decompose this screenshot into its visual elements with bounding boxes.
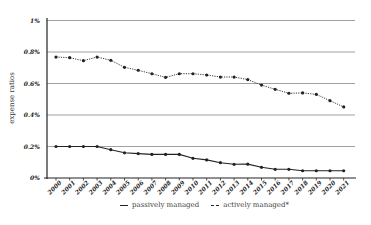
data-point-marker [301,169,304,172]
data-point-marker [301,91,304,94]
x-tick-label: 2018 [292,178,310,196]
data-point-marker [178,72,181,75]
x-tick-label: 2002 [73,179,90,196]
x-tick-label: 2012 [210,179,227,196]
data-point-marker [82,145,85,148]
data-point-marker [287,168,290,171]
data-point-marker [54,55,57,58]
data-point-marker [54,145,57,148]
data-point-marker [274,168,277,171]
x-tick-label: 2017 [278,178,296,196]
data-point-marker [233,75,236,78]
data-point-marker [150,153,153,156]
data-point-marker [96,55,99,58]
x-tick-label: 2021 [333,179,350,196]
x-tick-label: 2001 [59,179,76,196]
data-point-marker [137,152,140,155]
data-point-marker [246,163,249,166]
legend: passively managed actively managed* [120,201,289,209]
data-point-marker [164,76,167,79]
x-tick-label: 2000 [45,178,63,196]
data-point-marker [342,105,345,108]
data-point-marker [219,161,222,164]
x-tick-label: 2008 [155,178,173,196]
data-point-marker [123,66,126,69]
dotted-line-swatch-icon [211,205,219,206]
data-point-marker [178,153,181,156]
x-tick-label: 2016 [264,178,282,196]
y-tick-label: 0.4% [24,111,40,118]
data-point-marker [205,158,208,161]
legend-item-passive: passively managed [120,201,199,209]
data-point-marker [123,151,126,154]
actively-managed-line [56,57,344,107]
data-point-marker [260,166,263,169]
data-point-marker [328,169,331,172]
data-point-marker [109,148,112,151]
y-axis-label: expense ratios [8,72,16,124]
data-point-marker [246,78,249,81]
data-point-marker [68,145,71,148]
x-tick-label: 2007 [141,178,159,196]
data-point-marker [233,163,236,166]
x-tick-label: 2005 [114,179,131,196]
solid-line-swatch-icon [120,205,128,206]
data-point-marker [82,59,85,62]
line-chart: 0%0.2%0.4%0.6%0.8%1% expense ratios 2000… [0,0,371,225]
x-tick-label: 2020 [319,178,337,196]
x-tick-label: 2011 [196,179,213,196]
legend-label-passive: passively managed [132,201,199,209]
data-point-marker [68,56,71,59]
passively-managed-line [56,147,344,171]
data-point-marker [219,75,222,78]
data-point-marker [342,169,345,172]
data-point-marker [274,88,277,91]
x-axis-ticks: 2000200120022003200420052006200720082009… [45,178,350,196]
x-tick-label: 2006 [127,178,145,196]
data-point-marker [137,69,140,72]
x-tick-label: 2004 [100,179,117,196]
x-tick-label: 2014 [237,179,254,196]
x-tick-label: 2009 [168,178,186,196]
y-tick-label: 0.2% [24,143,40,150]
data-point-marker [315,169,318,172]
legend-item-active: actively managed* [211,201,289,209]
x-tick-label: 2003 [86,179,103,196]
data-point-marker [191,157,194,160]
data-point-marker [328,99,331,102]
y-tick-label: 0.8% [24,48,40,55]
x-tick-label: 2015 [251,179,268,196]
data-point-marker [191,72,194,75]
x-tick-label: 2019 [305,178,323,196]
x-tick-label: 2010 [182,178,200,196]
data-point-marker [315,93,318,96]
series-group [54,55,345,172]
legend-label-active: actively managed* [223,201,289,209]
y-tick-label: 1% [30,17,40,24]
data-point-marker [150,72,153,75]
data-point-marker [96,145,99,148]
data-point-marker [205,73,208,76]
gridlines [47,21,355,147]
y-tick-label: 0.6% [24,80,40,87]
data-point-marker [287,92,290,95]
data-point-marker [260,83,263,86]
data-point-marker [109,59,112,62]
x-tick-label: 2013 [223,179,240,196]
data-point-marker [164,153,167,156]
y-axis-ticks: 0%0.2%0.4%0.6%0.8%1% [24,17,40,182]
y-tick-label: 0% [30,174,40,181]
